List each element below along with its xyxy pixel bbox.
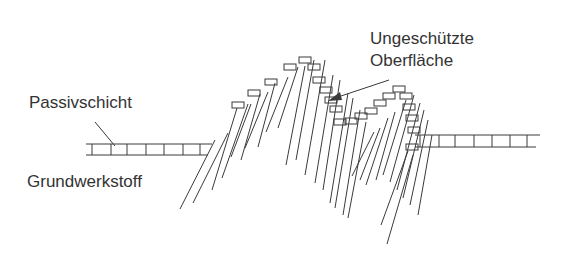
passive-layer-right xyxy=(415,135,540,147)
slip-band-diagram xyxy=(0,0,575,270)
slip-bands xyxy=(180,60,432,244)
base-material-label: Grundwerkstoff xyxy=(27,173,142,190)
passive-layer-label: Passivschicht xyxy=(29,94,132,111)
unprotected-surface-label-line2: Oberfläche xyxy=(370,50,474,72)
unprotected-surface-label: Ungeschützte Oberfläche xyxy=(370,28,474,72)
passive-layer-leader xyxy=(95,122,115,146)
passive-layer-left xyxy=(86,144,212,155)
unprotected-surface-arrow xyxy=(328,80,389,101)
unprotected-surface-label-line1: Ungeschützte xyxy=(370,28,474,50)
